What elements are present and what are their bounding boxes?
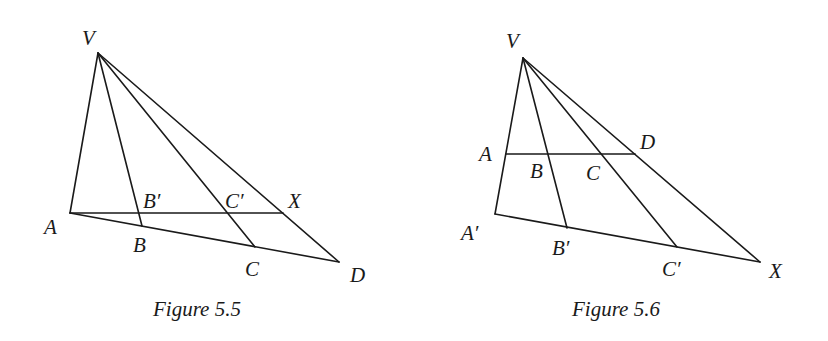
segment-VA: [70, 53, 98, 213]
label-B: B: [133, 233, 146, 257]
label-A-prime: A′: [459, 221, 479, 245]
label-A: A: [477, 142, 492, 166]
label-A: A: [42, 215, 57, 239]
label-V: V: [506, 29, 521, 53]
label-V: V: [82, 26, 97, 50]
segment-VB-prime: [523, 58, 567, 228]
label-D: D: [349, 263, 365, 287]
segment-VD: [98, 53, 339, 262]
diagram-canvas: V A B′ B C′ X C D Figure 5.5 V A D B C A…: [0, 0, 828, 341]
segment-AD: [70, 213, 339, 262]
label-C-prime: C′: [662, 257, 681, 281]
label-X: X: [287, 189, 302, 213]
label-B-prime: B′: [143, 189, 161, 213]
label-D: D: [639, 130, 655, 154]
label-X: X: [768, 259, 783, 283]
label-B: B: [530, 159, 543, 183]
segment-VX: [523, 58, 760, 262]
label-B-prime: B′: [552, 236, 570, 260]
figure-5-5: V A B′ B C′ X C D Figure 5.5: [42, 26, 365, 321]
segment-A-prime-X: [495, 214, 760, 262]
segment-VC: [98, 53, 255, 247]
segment-VA-prime: [495, 58, 523, 214]
label-C: C: [586, 161, 601, 185]
label-C-prime: C′: [225, 189, 244, 213]
figure-5-6: V A D B C A′ B′ C′ X Figure 5.6: [459, 29, 783, 321]
caption-figure-5-5: Figure 5.5: [152, 297, 241, 321]
caption-figure-5-6: Figure 5.6: [571, 297, 660, 321]
label-C: C: [245, 257, 260, 281]
